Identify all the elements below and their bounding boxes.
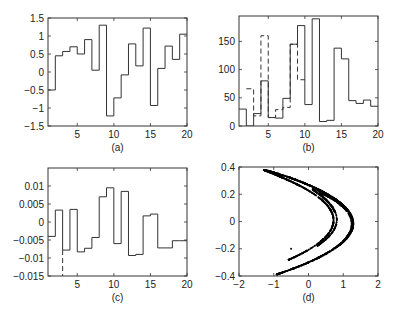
- y-tick-label: −1.5: [24, 121, 44, 132]
- y-tick-label: −0.4: [215, 271, 235, 282]
- x-tick-label: 0: [306, 279, 312, 290]
- attractor-points: [264, 170, 354, 275]
- axes-frame: [48, 168, 187, 276]
- x-tick-label: 2: [375, 279, 381, 290]
- y-tick-label: −0.2: [215, 243, 235, 254]
- plot-area: [48, 188, 187, 276]
- y-tick-label: 0.5: [30, 49, 44, 60]
- y-tick-label: 0.4: [221, 162, 235, 173]
- dashed-stairs-line: [246, 36, 305, 118]
- x-tick-label: 15: [145, 279, 157, 290]
- figure-canvas: 5101520−1.5−1−0.500.511.5(a)510152005010…: [0, 0, 395, 317]
- x-tick-label: −1: [268, 279, 280, 290]
- axes-frame: [239, 167, 378, 276]
- subplot-caption: (b): [302, 142, 314, 153]
- y-tick-label: 1: [38, 31, 44, 42]
- subplot-c: 5101520−0.015−0.01−0.00500.0050.01(c): [13, 168, 193, 303]
- y-tick-label: −1: [33, 103, 45, 114]
- x-tick-label: 5: [265, 129, 271, 140]
- x-tick-label: −2: [233, 279, 245, 290]
- y-tick-label: 0: [229, 121, 235, 132]
- y-tick-label: −0.005: [13, 235, 44, 246]
- subplot-a: 5101520−1.5−1−0.500.511.5(a): [24, 13, 193, 154]
- x-tick-label: 5: [74, 279, 80, 290]
- x-tick-label: 10: [108, 279, 120, 290]
- solid-stairs-line: [48, 188, 187, 256]
- solid-stairs-line: [48, 25, 187, 116]
- plot-area: [264, 170, 354, 275]
- x-tick-label: 10: [108, 129, 120, 140]
- plot-area: [239, 19, 378, 126]
- y-tick-label: 1.5: [30, 13, 44, 24]
- y-tick-label: 0: [38, 67, 44, 78]
- x-tick-label: 20: [372, 129, 384, 140]
- subplot-caption: (c): [112, 292, 124, 303]
- y-tick-label: 0: [229, 216, 235, 227]
- x-tick-label: 15: [145, 129, 157, 140]
- y-tick-label: −0.015: [13, 271, 44, 282]
- y-tick-label: 0.005: [19, 199, 44, 210]
- y-tick-label: 0.01: [25, 181, 45, 192]
- subplot-caption: (d): [302, 292, 314, 303]
- y-tick-label: 0.2: [221, 189, 235, 200]
- subplot-d: −2−1012−0.4−0.200.20.4(d): [215, 162, 381, 304]
- x-tick-label: 1: [340, 279, 346, 290]
- outlier-point: [290, 248, 292, 250]
- y-tick-label: −0.01: [19, 253, 45, 264]
- x-tick-label: 20: [181, 279, 193, 290]
- y-tick-label: 150: [218, 36, 235, 47]
- y-tick-label: 50: [224, 92, 236, 103]
- axes-frame: [48, 18, 187, 126]
- subplot-b: 5101520050100150(b): [218, 16, 384, 153]
- axes-frame: [239, 16, 378, 126]
- plot-area: [48, 25, 187, 116]
- y-tick-label: 100: [218, 64, 235, 75]
- x-tick-label: 5: [74, 129, 80, 140]
- x-tick-label: 20: [181, 129, 193, 140]
- y-tick-label: −0.5: [24, 85, 44, 96]
- solid-stairs-line: [239, 19, 378, 126]
- x-tick-label: 15: [336, 129, 348, 140]
- y-tick-label: 0: [38, 217, 44, 228]
- subplot-caption: (a): [111, 142, 123, 153]
- x-tick-label: 10: [299, 129, 311, 140]
